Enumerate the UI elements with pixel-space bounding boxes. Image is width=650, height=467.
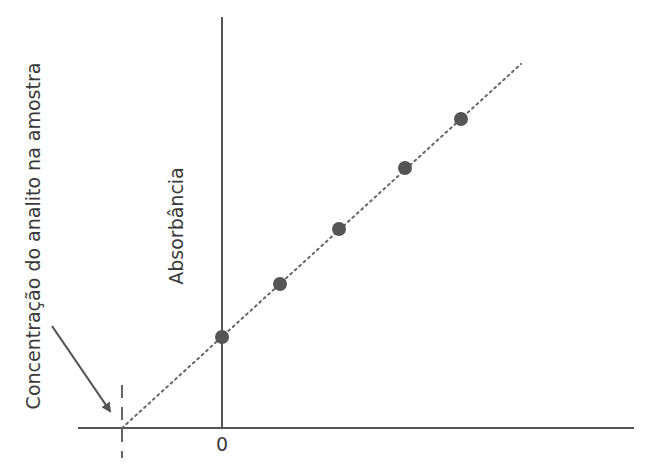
y-axis-label: Absorbância xyxy=(165,167,187,285)
x-tick-zero: 0 xyxy=(216,433,228,455)
data-point xyxy=(273,277,287,291)
data-point xyxy=(454,112,468,126)
data-point xyxy=(332,222,346,236)
annotation-label: Concentração do analito na amostra xyxy=(22,63,44,410)
data-point xyxy=(215,330,229,344)
standard-addition-chart: 0 Absorbância Concentração do analito na… xyxy=(0,0,650,467)
data-point xyxy=(398,161,412,175)
annotation-arrow-icon xyxy=(52,326,110,411)
